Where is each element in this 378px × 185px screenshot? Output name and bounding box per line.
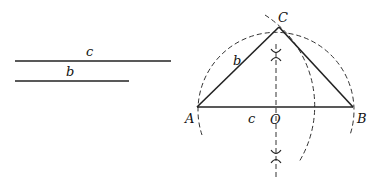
given-segment-c: c (15, 44, 171, 61)
arc-radius-b-from-a (265, 15, 315, 162)
segment-b-label: b (66, 64, 74, 79)
point-a-label: A (184, 111, 194, 126)
side-ac-label: b (233, 53, 241, 68)
construction-diagram: c b A B C O b c (0, 0, 378, 185)
side-ab-label: c (248, 111, 256, 126)
side-bc (279, 27, 353, 107)
segment-c-label: c (86, 44, 94, 59)
given-segment-b: b (15, 64, 129, 81)
point-o-label: O (270, 112, 281, 127)
point-b-label: B (356, 111, 367, 126)
point-c-label: C (278, 10, 288, 25)
